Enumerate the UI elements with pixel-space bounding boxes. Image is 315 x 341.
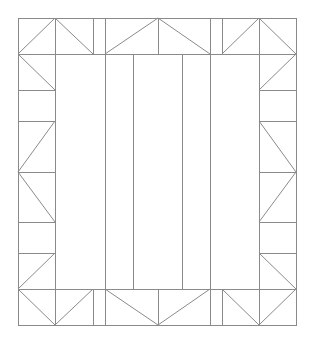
diagonal-line	[158, 18, 210, 54]
diagonal-line	[18, 54, 55, 90]
diagonal-line	[18, 289, 55, 325]
diagonal-line	[55, 18, 93, 54]
diagonal-line	[259, 172, 296, 222]
diagonal-line	[55, 289, 93, 325]
diagonal-line	[18, 18, 55, 54]
diagonal-line	[158, 289, 210, 325]
diagonal-line	[259, 121, 296, 172]
diagonal-line	[18, 172, 55, 222]
diagonal-line	[18, 121, 55, 172]
diagonal-line	[259, 54, 296, 90]
outer-border	[19, 19, 297, 326]
diagonal-line	[259, 289, 296, 325]
diagonal-lines	[18, 18, 296, 325]
diagonal-line	[259, 253, 296, 289]
diagonal-line	[222, 289, 259, 325]
diagonal-line	[105, 289, 158, 325]
horizontal-lines	[19, 55, 297, 290]
diagonal-line	[259, 18, 296, 54]
vertical-lines	[56, 19, 260, 326]
diagonal-line	[18, 253, 55, 289]
quilt-block-diagram	[0, 0, 315, 341]
diagonal-line	[222, 18, 259, 54]
diagonal-line	[105, 18, 158, 54]
